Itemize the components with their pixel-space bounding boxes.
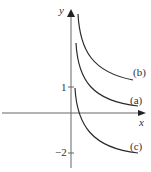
curve-c-label: (c) bbox=[130, 141, 142, 152]
curve-b-label: (b) bbox=[133, 67, 146, 78]
curve-a bbox=[76, 43, 138, 106]
y-axis-label: y bbox=[59, 5, 64, 16]
curve-b bbox=[78, 14, 133, 80]
y-axis-arrow-icon bbox=[67, 9, 75, 17]
y-tick-label-neg2: −2 bbox=[55, 147, 67, 158]
y-tick-label-1: 1 bbox=[61, 82, 67, 93]
x-axis-label: x bbox=[139, 117, 144, 128]
graph-canvas bbox=[0, 0, 151, 172]
curve-a-label: (a) bbox=[130, 95, 142, 106]
